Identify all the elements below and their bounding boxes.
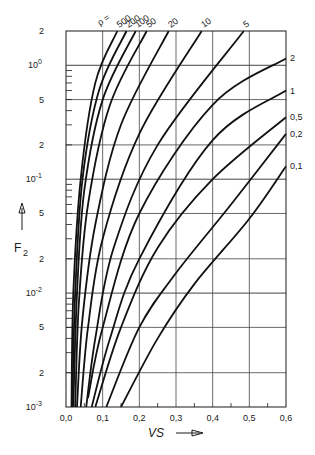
x-tick-label: 0,1 xyxy=(96,413,109,423)
y-tick-labels: 10-32510-22510-1251002 xyxy=(26,26,44,412)
series-label: 0,1 xyxy=(290,161,303,171)
y-tick-label: 5 xyxy=(39,95,44,105)
y-axis-label: F xyxy=(14,241,21,255)
x-tick-label: 0,6 xyxy=(280,413,293,423)
y-tick-label: 2 xyxy=(39,26,44,36)
series-label: 10 xyxy=(199,16,213,30)
x-axis-title: VS xyxy=(148,426,203,440)
grid-lines xyxy=(66,31,286,407)
y-tick-label: 2 xyxy=(39,140,44,150)
curves xyxy=(72,31,287,407)
series-label: 0,2 xyxy=(290,129,303,139)
curve-rho-1 xyxy=(92,91,286,407)
series-label: 0,5 xyxy=(290,112,303,122)
x-tick-label: 0,4 xyxy=(206,413,219,423)
x-tick-labels: 0,00,10,20,30,40,50,6 xyxy=(60,413,293,423)
y-axis-title: F 2 xyxy=(14,203,28,258)
y-tick-label: 100 xyxy=(28,58,42,70)
y-tick-label: 2 xyxy=(39,368,44,378)
x-tick-label: 0,5 xyxy=(243,413,256,423)
series-label: 1 xyxy=(290,86,295,96)
x-axis-label: VS xyxy=(148,426,164,440)
x-tick-label: 0,2 xyxy=(133,413,146,423)
y-tick-label: 5 xyxy=(39,208,44,218)
y-tick-label: 10-3 xyxy=(26,400,42,412)
curve-rho-10 xyxy=(81,31,202,407)
series-label: 5 xyxy=(241,19,251,30)
y-tick-label: 5 xyxy=(39,322,44,332)
x-tick-label: 0,3 xyxy=(170,413,183,423)
y-tick-label: 2 xyxy=(39,254,44,264)
series-label: 2 xyxy=(290,53,295,63)
y-tick-label: 10-1 xyxy=(26,172,42,184)
y-tick-label: 10-2 xyxy=(26,286,42,298)
curve-rho-2 xyxy=(88,58,286,398)
chart: 0,00,10,20,30,40,50,6 10-32510-22510-125… xyxy=(0,0,315,455)
y-axis-subscript: 2 xyxy=(23,248,28,258)
x-tick-label: 0,0 xyxy=(60,413,73,423)
rho-label: ρ = xyxy=(95,12,111,28)
curve-rho-100 xyxy=(73,31,135,407)
series-label: 20 xyxy=(166,16,180,30)
